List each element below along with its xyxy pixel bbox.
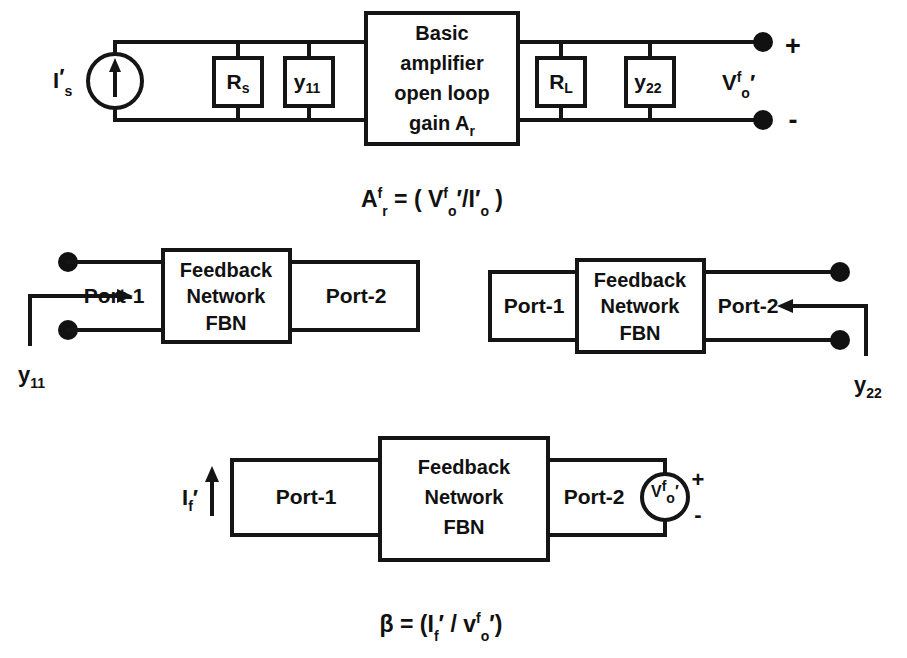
y22-parameter-label: y22 — [854, 372, 882, 401]
fbn-right-line-2: Network — [601, 295, 681, 317]
circuit-diagram-svg: I′s Rs y11 Basic amplifier open loop gai… — [0, 0, 907, 658]
fbn-bottom-line-1: Feedback — [418, 456, 511, 478]
fbn-bottom-line-2: Network — [425, 486, 505, 508]
fbn-left-line-2: Network — [187, 285, 267, 307]
fbn-bottom-line-3: FBN — [443, 516, 484, 538]
port2-label-left: Port-2 — [326, 284, 387, 307]
source-plus-sign: + — [692, 467, 705, 492]
middle-right-diagram-group: Port-1 Port-2 Feedback Network FBN y22 — [490, 260, 882, 401]
y11-parameter-label: y11 — [18, 362, 45, 391]
beta-port2-bottom-lead — [548, 519, 665, 535]
source-minus-sign: - — [694, 502, 701, 527]
amplifier-line-1: Basic — [415, 22, 468, 44]
amplifier-line-2: amplifier — [400, 52, 484, 74]
equation-top-text: Afr = ( Vfo′/I′o ) — [361, 185, 503, 219]
middle-left-diagram-group: Port-1 Port-2 Feedback Network FBN y11 — [18, 250, 418, 391]
equation-bottom-group: β = (If′ / vfo′) — [380, 610, 503, 644]
figure-canvas: I′s Rs y11 Basic amplifier open loop gai… — [0, 0, 907, 658]
fbn-right-line-1: Feedback — [594, 269, 687, 291]
source-label: I′s — [53, 64, 72, 99]
port2-label-bottom: Port-2 — [564, 485, 625, 508]
y22-indicator-arrowhead — [777, 299, 793, 313]
feedback-current-label: If′ — [182, 485, 198, 514]
fbn-right-line-3: FBN — [619, 322, 660, 344]
port1-label-left: Port-1 — [84, 284, 145, 307]
feedback-current-arrow-head — [205, 466, 219, 482]
y22-terminal-bottom-dot — [830, 330, 850, 350]
y22-indicator-lead — [790, 306, 866, 356]
port2-label-right: Port-2 — [718, 294, 779, 317]
amplifier-line-3: open loop — [394, 82, 490, 104]
port1-label-bottom: Port-1 — [276, 485, 337, 508]
beta-port2-top-lead — [548, 460, 665, 475]
fbn-left-line-3: FBN — [205, 312, 246, 334]
port1-label-right: Port-1 — [504, 294, 565, 317]
output-voltage-label: Vfo′ — [722, 69, 755, 101]
bottom-diagram-group: If′ Port-1 Port-2 Feedback Network FBN V… — [182, 438, 704, 560]
y22-terminal-top-dot — [830, 262, 850, 282]
output-terminal-positive-dot — [753, 32, 773, 52]
output-plus-sign: + — [785, 31, 801, 61]
fbn-left-line-1: Feedback — [180, 259, 273, 281]
equation-bottom-text: β = (If′ / vfo′) — [380, 610, 503, 644]
output-terminal-negative-dot — [753, 110, 773, 130]
output-minus-sign: - — [789, 105, 798, 135]
equation-top-group: Afr = ( Vfo′/I′o ) — [361, 185, 503, 219]
